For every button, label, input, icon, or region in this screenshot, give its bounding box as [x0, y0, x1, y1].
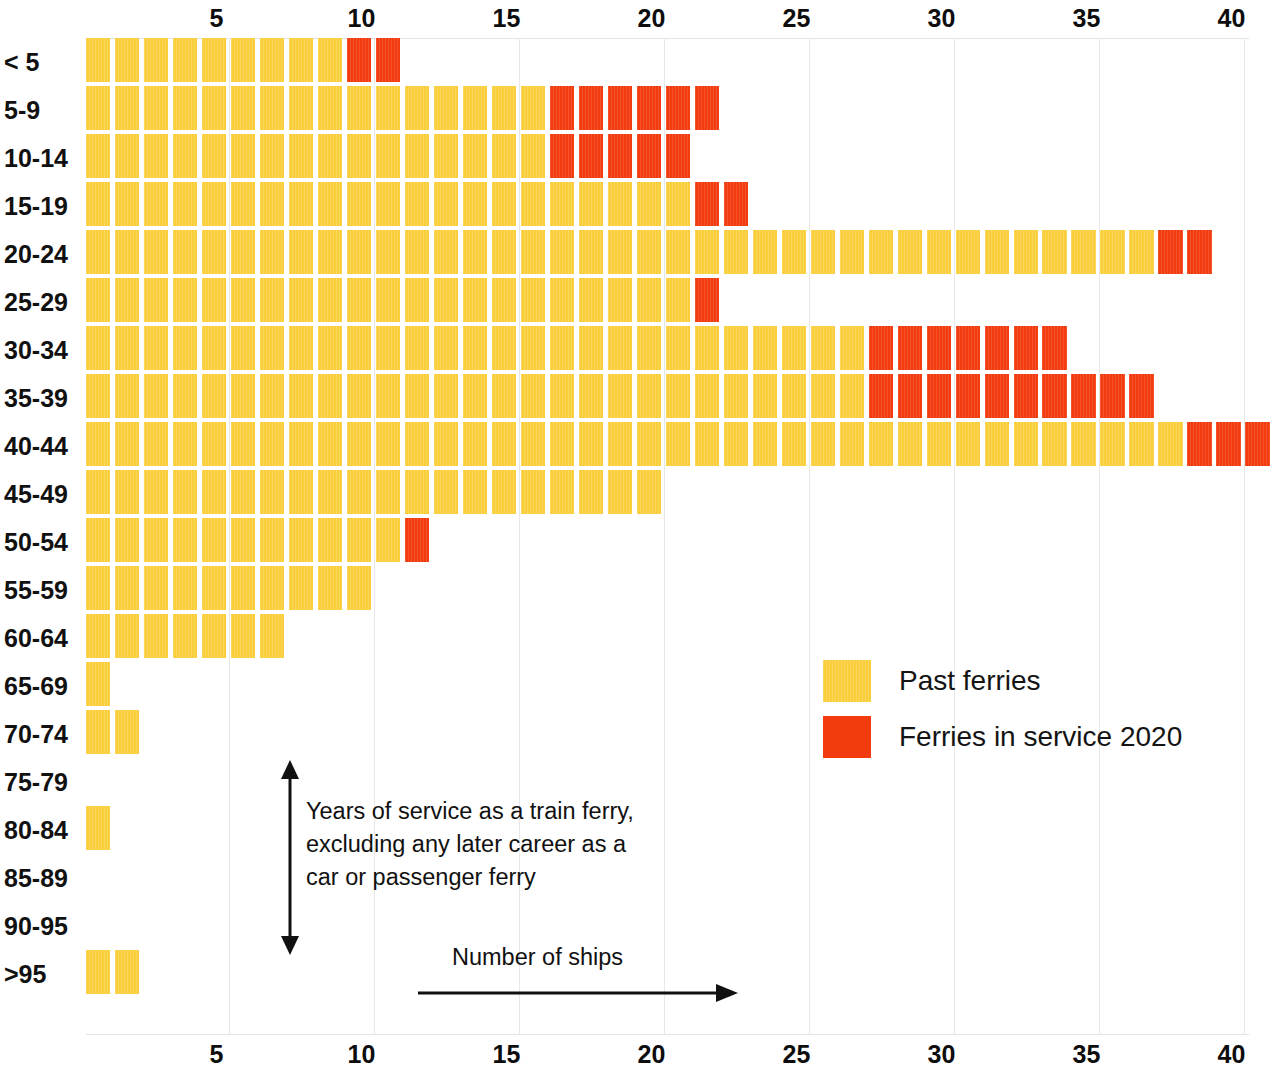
- unit-cell-past: [1100, 422, 1124, 466]
- unit-cell-past: [405, 134, 429, 178]
- unit-cell-past: [608, 230, 632, 274]
- unit-cell-past: [318, 230, 342, 274]
- unit-cell-past: [840, 230, 864, 274]
- unit-cell-past: [144, 230, 168, 274]
- x-tick-top-15: 15: [477, 4, 537, 33]
- unit-cell-past: [115, 326, 139, 370]
- unit-cell-service: [869, 374, 893, 418]
- unit-cell-past: [434, 326, 458, 370]
- unit-cell-past: [173, 182, 197, 226]
- unit-cell-past: [666, 230, 690, 274]
- unit-cell-past: [405, 278, 429, 322]
- unit-cell-past: [550, 230, 574, 274]
- y-axis-label-11: 55-59: [0, 566, 78, 614]
- chart-row: [86, 950, 144, 998]
- unit-cell-past: [144, 422, 168, 466]
- unit-cell-past: [1042, 230, 1066, 274]
- unit-cell-past: [521, 230, 545, 274]
- unit-cell-past: [753, 374, 777, 418]
- legend-item-service[interactable]: Ferries in service 2020: [823, 709, 1182, 765]
- unit-cell-past: [550, 326, 574, 370]
- unit-cell-past: [927, 422, 951, 466]
- unit-cell-past: [637, 278, 661, 322]
- unit-cell-past: [260, 38, 284, 82]
- unit-cell-past: [144, 566, 168, 610]
- y-axis-label-13: 65-69: [0, 662, 78, 710]
- unit-cell-past: [231, 38, 255, 82]
- unit-cell-service: [1216, 422, 1240, 466]
- unit-cell-past: [86, 134, 110, 178]
- unit-cell-past: [202, 38, 226, 82]
- unit-cell-service: [550, 86, 574, 130]
- legend-label-service: Ferries in service 2020: [899, 721, 1182, 753]
- unit-cell-service: [666, 86, 690, 130]
- horizontal-arrow-icon: [418, 978, 738, 1008]
- unit-cell-past: [608, 182, 632, 226]
- unit-cell-past: [347, 182, 371, 226]
- unit-cell-past: [1129, 422, 1153, 466]
- unit-cell-past: [782, 230, 806, 274]
- unit-cell-past: [173, 566, 197, 610]
- unit-cell-past: [898, 230, 922, 274]
- unit-cell-past: [173, 470, 197, 514]
- unit-cell-past: [550, 182, 574, 226]
- unit-cell-past: [231, 422, 255, 466]
- unit-cell-past: [608, 278, 632, 322]
- unit-cell-past: [86, 614, 110, 658]
- unit-cell-service: [1187, 422, 1211, 466]
- y-axis-note-line-3: car or passenger ferry: [306, 861, 676, 894]
- unit-cell-service: [1158, 230, 1182, 274]
- y-axis-note: Years of service as a train ferry, exclu…: [306, 795, 676, 894]
- unit-cell-past: [347, 470, 371, 514]
- unit-cell-past: [521, 374, 545, 418]
- unit-cell-past: [144, 134, 168, 178]
- unit-cell-past: [434, 134, 458, 178]
- unit-cell-past: [434, 182, 458, 226]
- chart-row: [86, 86, 724, 134]
- y-axis-label-14: 70-74: [0, 710, 78, 758]
- unit-cell-past: [579, 374, 603, 418]
- unit-cell-past: [463, 230, 487, 274]
- unit-cell-past: [260, 134, 284, 178]
- unit-cell-past: [463, 278, 487, 322]
- unit-cell-past: [115, 374, 139, 418]
- unit-cell-past: [86, 182, 110, 226]
- unit-cell-service: [695, 86, 719, 130]
- unit-cell-past: [144, 86, 168, 130]
- chart-row: [86, 422, 1274, 470]
- unit-cell-past: [753, 326, 777, 370]
- unit-cell-past: [231, 470, 255, 514]
- unit-cell-past: [405, 470, 429, 514]
- unit-cell-past: [492, 422, 516, 466]
- unit-cell-past: [231, 326, 255, 370]
- unit-cell-past: [405, 374, 429, 418]
- y-axis-label-2: 10-14: [0, 134, 78, 182]
- y-axis-label-0: < 5: [0, 38, 78, 86]
- unit-cell-past: [202, 518, 226, 562]
- unit-cell-service: [985, 326, 1009, 370]
- unit-cell-service: [724, 182, 748, 226]
- unit-cell-past: [492, 230, 516, 274]
- unit-cell-service: [1014, 374, 1038, 418]
- unit-cell-past: [492, 86, 516, 130]
- unit-cell-past: [956, 422, 980, 466]
- unit-cell-past: [289, 86, 313, 130]
- unit-cell-past: [405, 230, 429, 274]
- y-axis-note-line-2: excluding any later career as a: [306, 828, 676, 861]
- unit-cell-past: [260, 326, 284, 370]
- unit-cell-service: [927, 374, 951, 418]
- unit-cell-past: [289, 134, 313, 178]
- unit-cell-past: [1014, 230, 1038, 274]
- legend-item-past[interactable]: Past ferries: [823, 653, 1182, 709]
- unit-cell-past: [86, 86, 110, 130]
- unit-cell-past: [115, 566, 139, 610]
- unit-cell-service: [376, 38, 400, 82]
- unit-cell-past: [86, 422, 110, 466]
- unit-cell-past: [724, 230, 748, 274]
- unit-cell-past: [753, 422, 777, 466]
- chart-row: [86, 614, 289, 662]
- unit-cell-past: [579, 422, 603, 466]
- unit-cell-past: [347, 374, 371, 418]
- unit-cell-service: [695, 182, 719, 226]
- chart-row: [86, 806, 115, 854]
